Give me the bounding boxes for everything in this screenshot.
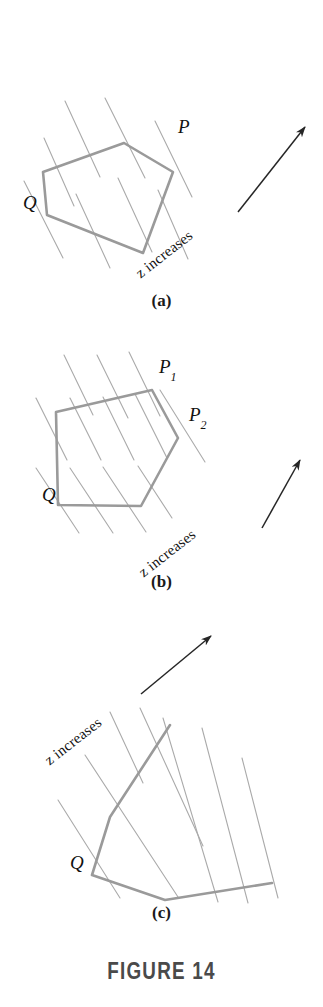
grid-line [138,466,172,518]
figure-sheet: P Q z increases (a) [0,0,323,1007]
panel-b-label: (b) [0,572,323,592]
grid-line [76,194,110,268]
grid-line [163,718,218,902]
grid-line [242,758,278,898]
grid-line [97,355,128,418]
panel-c-polygon [92,725,272,900]
grid-line [105,98,145,178]
grid-line [85,755,178,897]
panel-a-z-arrow [238,127,305,212]
figure-panel-c: Q z increases (c) [0,610,323,950]
grid-line [140,708,203,846]
panel-b-point-label-P2: P2 [189,405,207,428]
grid-line [36,398,67,460]
grid-line [103,467,146,532]
panel-c-z-arrow [141,636,211,694]
grid-line [103,397,134,460]
panel-b-z-arrow [262,460,300,528]
grid-line [44,138,74,206]
panel-a-point-label-Q: Q [23,193,37,212]
panel-c-label: (c) [0,903,323,923]
grid-line [129,352,160,416]
panel-b-point-label-P1: P1 [159,357,177,380]
grid-line [65,101,100,177]
grid-line [202,728,248,903]
panel-a-point-label-P: P [178,117,190,136]
figure-panel-b: P1 P2 Q z increases (b) [0,340,323,610]
grid-line [135,394,167,458]
panel-b-point-label-Q: Q [42,485,56,504]
panel-c-point-label-Q: Q [70,853,84,872]
panel-a-polygon [43,143,173,253]
figure-caption: FIGURE 14 [29,958,294,985]
grid-line [70,468,113,533]
figure-panel-a: P Q z increases (a) [0,0,323,340]
panel-a-label: (a) [0,291,323,311]
